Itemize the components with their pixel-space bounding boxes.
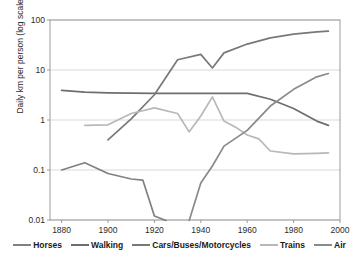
y-tick-label: 0.01 xyxy=(28,215,45,225)
x-tick-label: 1960 xyxy=(238,225,257,235)
y-tick-label: 100 xyxy=(31,15,45,25)
x-tick-label: 1880 xyxy=(52,225,71,235)
x-tick-label: 1900 xyxy=(99,225,118,235)
legend-item-horses[interactable]: Horses xyxy=(13,240,62,250)
legend-item-air[interactable]: Air xyxy=(314,240,346,250)
legend-line-icon xyxy=(260,244,278,246)
legend-line-icon xyxy=(314,244,332,246)
y-tick-label: 10 xyxy=(36,65,45,75)
legend-item-label: Cars/Buses/Motorcycles xyxy=(152,240,251,250)
legend-line-icon xyxy=(13,244,31,246)
legend-item-label: Air xyxy=(334,240,346,250)
legend-item-label: Trains xyxy=(280,240,305,250)
legend-item-cars-buses-motorcycles[interactable]: Cars/Buses/Motorcycles xyxy=(132,240,251,250)
x-tick-label: 1980 xyxy=(284,225,303,235)
x-tick-label: 2000 xyxy=(331,225,350,235)
chart-legend: HorsesWalkingCars/Buses/MotorcyclesTrain… xyxy=(0,240,359,250)
y-tick-label: 0.1 xyxy=(33,165,45,175)
line-chart: Daily km per person (log scale) 0.010.11… xyxy=(0,0,359,262)
legend-line-icon xyxy=(132,244,150,246)
x-tick-label: 1920 xyxy=(145,225,164,235)
x-tick-label: 1940 xyxy=(191,225,210,235)
legend-item-walking[interactable]: Walking xyxy=(71,240,123,250)
legend-item-label: Walking xyxy=(91,240,123,250)
legend-item-trains[interactable]: Trains xyxy=(260,240,305,250)
legend-item-label: Horses xyxy=(33,240,62,250)
y-tick-label: 1 xyxy=(40,115,45,125)
y-axis-ticks: 0.010.1110100 xyxy=(0,0,359,262)
legend-line-icon xyxy=(71,244,89,246)
